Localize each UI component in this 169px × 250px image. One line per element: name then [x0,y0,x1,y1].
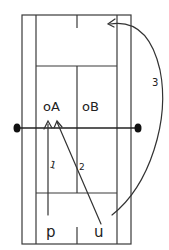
shot-1-label: 1 [49,159,58,171]
shot-2-path [57,122,101,224]
player-a-label: oA [43,99,60,114]
player-b-label: oB [82,99,99,114]
labels: oA oB 1 2 3 p u [43,77,158,241]
shot-3-label: 3 [152,77,158,88]
player-p-label: p [46,223,56,241]
player-u-label: u [94,223,104,241]
tennis-court-diagram: oA oB 1 2 3 p u [0,0,169,250]
shot-3-path [110,23,163,215]
net-post-right [135,124,142,133]
net-post-left [14,124,21,133]
court-lines [22,15,131,244]
shot-2-label: 2 [79,162,85,172]
